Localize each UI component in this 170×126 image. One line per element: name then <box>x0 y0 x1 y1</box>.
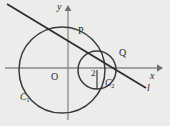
y-axis-label: y <box>57 2 61 12</box>
x-axis <box>5 64 163 71</box>
origin-label: O <box>51 72 58 82</box>
circle-label-c2-subscript: 2 <box>111 82 114 89</box>
y-axis-arrowhead <box>65 5 72 11</box>
geometry-figure: y x O P Q C1 C2 2 l <box>0 0 170 126</box>
x-axis-arrowhead <box>157 64 163 71</box>
circle-label-c2: C2 <box>105 79 115 89</box>
tangent-line-label: l <box>147 83 150 93</box>
circle-label-c1-subscript: 1 <box>26 96 29 103</box>
radius-value-label: 2 <box>91 69 96 78</box>
y-axis <box>65 5 72 120</box>
x-axis-label: x <box>150 71 154 81</box>
circle-label-c1: C1 <box>20 93 30 103</box>
figure-canvas <box>0 0 170 126</box>
tangent-line-l <box>7 4 146 88</box>
point-label-p: P <box>78 26 84 36</box>
point-label-q: Q <box>119 48 126 58</box>
